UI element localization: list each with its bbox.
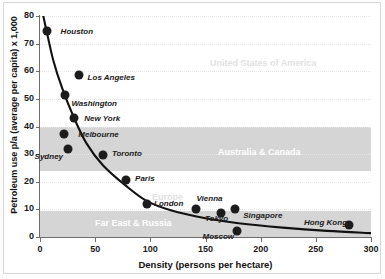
data-point xyxy=(143,200,152,209)
x-tick-label: 100 xyxy=(143,244,158,254)
data-point-label: Melbourne xyxy=(78,130,118,139)
x-tick xyxy=(40,238,41,242)
x-tick xyxy=(371,238,372,242)
y-tick xyxy=(36,71,40,72)
trend-curve xyxy=(40,16,371,237)
data-point xyxy=(233,226,242,235)
data-point-label: Moscow xyxy=(202,232,234,241)
data-point-label: Houston xyxy=(61,27,93,36)
x-tick-label: 200 xyxy=(253,244,268,254)
x-tick-label: 300 xyxy=(363,244,378,254)
data-point xyxy=(122,176,131,185)
data-point-label: Los Angeles xyxy=(88,73,135,82)
y-tick-label: 10 xyxy=(0,203,34,213)
y-tick-label: 40 xyxy=(0,121,34,131)
data-point-label: Hong Kong xyxy=(304,218,347,227)
y-tick xyxy=(36,127,40,128)
y-tick xyxy=(36,16,40,17)
data-point xyxy=(60,129,69,138)
y-tick xyxy=(36,182,40,183)
x-tick xyxy=(261,238,262,242)
data-point xyxy=(42,27,51,36)
data-point xyxy=(98,150,107,159)
x-tick-label: 250 xyxy=(308,244,323,254)
y-tick xyxy=(36,99,40,100)
x-tick-label: 0 xyxy=(37,244,42,254)
x-tick xyxy=(95,238,96,242)
region-label: Australia & Canada xyxy=(218,147,301,157)
y-tick-label: 50 xyxy=(0,93,34,103)
data-point xyxy=(74,71,83,80)
data-point xyxy=(70,114,79,123)
data-point xyxy=(191,205,200,214)
x-tick xyxy=(150,238,151,242)
data-point-label: Washington xyxy=(71,99,117,108)
data-point-label: New York xyxy=(84,114,120,123)
y-tick xyxy=(36,209,40,210)
data-point-label: Toronto xyxy=(112,149,142,158)
region-label: United States of America xyxy=(210,58,316,68)
x-tick-label: 50 xyxy=(90,244,100,254)
y-tick-label: 0 xyxy=(0,231,34,241)
data-point-label: Singapore xyxy=(243,211,282,220)
plot-area xyxy=(40,16,371,237)
data-point xyxy=(231,205,240,214)
y-tick xyxy=(36,44,40,45)
y-tick-label: 30 xyxy=(0,148,34,158)
y-tick-label: 20 xyxy=(0,176,34,186)
data-point xyxy=(61,90,70,99)
data-point xyxy=(63,144,72,153)
y-tick-label: 80 xyxy=(0,10,34,20)
data-point-label: Sydney xyxy=(35,152,63,161)
data-point-label: London xyxy=(154,199,183,208)
data-point-label: Paris xyxy=(135,174,155,183)
y-tick-label: 70 xyxy=(0,38,34,48)
y-tick-label: 60 xyxy=(0,65,34,75)
x-tick-label: 150 xyxy=(198,244,213,254)
data-point-label: Tokyo xyxy=(205,214,228,223)
data-point-label: Vienna xyxy=(197,194,223,203)
x-axis-title: Density (persons per hectare) xyxy=(40,259,371,270)
chart-figure: Petroleum use p/a (average per capita) x… xyxy=(0,0,385,279)
region-label: Far East & Russia xyxy=(95,218,172,228)
x-tick xyxy=(316,238,317,242)
